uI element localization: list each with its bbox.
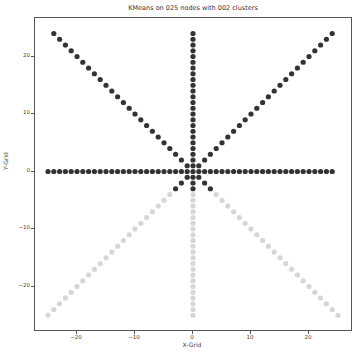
y-tick-label: −10 bbox=[8, 224, 30, 230]
dark-cluster-point bbox=[243, 117, 248, 122]
dark-cluster-point bbox=[208, 169, 213, 174]
dark-cluster-point bbox=[150, 169, 155, 174]
dark-cluster-point bbox=[86, 65, 91, 70]
light-cluster-point bbox=[330, 307, 335, 312]
dark-cluster-point bbox=[185, 163, 190, 168]
light-cluster-point bbox=[190, 221, 195, 226]
light-cluster-point bbox=[127, 232, 132, 237]
dark-cluster-point bbox=[190, 88, 195, 93]
dark-cluster-point bbox=[202, 180, 207, 185]
light-cluster-point bbox=[190, 284, 195, 289]
dark-cluster-point bbox=[190, 31, 195, 36]
light-cluster-point bbox=[190, 244, 195, 249]
dark-cluster-point bbox=[74, 169, 79, 174]
dark-cluster-point bbox=[272, 169, 277, 174]
dark-cluster-point bbox=[214, 146, 219, 151]
dark-cluster-point bbox=[121, 169, 126, 174]
light-cluster-point bbox=[190, 203, 195, 208]
dark-cluster-point bbox=[138, 169, 143, 174]
chart-title: KMeans on 025 nodes with 002 clusters bbox=[34, 4, 352, 12]
light-cluster-point bbox=[190, 198, 195, 203]
dark-cluster-point bbox=[196, 175, 201, 180]
light-cluster-point bbox=[190, 232, 195, 237]
x-tick-label: −20 bbox=[64, 334, 88, 340]
light-cluster-point bbox=[318, 295, 323, 300]
light-cluster-point bbox=[63, 295, 68, 300]
light-cluster-point bbox=[266, 244, 271, 249]
dark-cluster-point bbox=[190, 54, 195, 59]
light-cluster-point bbox=[190, 192, 195, 197]
x-tick-label: 20 bbox=[296, 334, 320, 340]
dark-cluster-point bbox=[161, 169, 166, 174]
dark-cluster-point bbox=[231, 129, 236, 134]
dark-cluster-point bbox=[190, 180, 195, 185]
light-cluster-point bbox=[190, 249, 195, 254]
light-cluster-point bbox=[86, 272, 91, 277]
dark-cluster-point bbox=[190, 48, 195, 53]
dark-cluster-point bbox=[306, 54, 311, 59]
dark-cluster-point bbox=[190, 134, 195, 139]
dark-cluster-point bbox=[115, 169, 120, 174]
dark-cluster-point bbox=[103, 169, 108, 174]
dark-cluster-point bbox=[156, 169, 161, 174]
dark-cluster-point bbox=[173, 152, 178, 157]
dark-cluster-point bbox=[98, 169, 103, 174]
light-cluster-point bbox=[190, 290, 195, 295]
dark-cluster-point bbox=[132, 169, 137, 174]
dark-cluster-point bbox=[237, 123, 242, 128]
light-cluster-point bbox=[190, 226, 195, 231]
light-cluster-point bbox=[219, 198, 224, 203]
dark-cluster-point bbox=[156, 134, 161, 139]
dark-cluster-point bbox=[167, 169, 172, 174]
dark-cluster-point bbox=[190, 146, 195, 151]
dark-cluster-point bbox=[254, 169, 259, 174]
dark-cluster-point bbox=[312, 48, 317, 53]
light-cluster-point bbox=[190, 307, 195, 312]
dark-cluster-point bbox=[283, 169, 288, 174]
dark-cluster-point bbox=[260, 169, 265, 174]
x-axis-label: X-Grid bbox=[180, 341, 204, 348]
dark-cluster-point bbox=[179, 180, 184, 185]
dark-cluster-point bbox=[190, 152, 195, 157]
dark-cluster-point bbox=[103, 83, 108, 88]
y-tick-mark bbox=[31, 228, 34, 229]
dark-cluster-point bbox=[190, 65, 195, 70]
y-tick-mark bbox=[31, 113, 34, 114]
x-tick-label: −10 bbox=[122, 334, 146, 340]
dark-cluster-point bbox=[330, 169, 335, 174]
light-cluster-point bbox=[190, 238, 195, 243]
dark-cluster-point bbox=[324, 37, 329, 42]
dark-cluster-point bbox=[208, 186, 213, 191]
dark-cluster-point bbox=[254, 106, 259, 111]
light-cluster-point bbox=[243, 221, 248, 226]
y-tick-mark bbox=[31, 171, 34, 172]
light-cluster-point bbox=[277, 255, 282, 260]
dark-cluster-point bbox=[190, 163, 195, 168]
dark-cluster-point bbox=[190, 71, 195, 76]
light-cluster-point bbox=[248, 226, 253, 231]
dark-cluster-point bbox=[92, 169, 97, 174]
dark-cluster-point bbox=[109, 88, 114, 93]
light-cluster-point bbox=[103, 255, 108, 260]
dark-cluster-point bbox=[260, 100, 265, 105]
dark-cluster-point bbox=[144, 123, 149, 128]
dark-cluster-point bbox=[132, 111, 137, 116]
scatter-points bbox=[35, 18, 353, 332]
dark-cluster-point bbox=[248, 111, 253, 116]
light-cluster-point bbox=[115, 244, 120, 249]
x-tick-label: 0 bbox=[180, 334, 204, 340]
dark-cluster-point bbox=[63, 169, 68, 174]
y-tick-mark bbox=[31, 286, 34, 287]
light-cluster-point bbox=[92, 267, 97, 272]
dark-cluster-point bbox=[190, 117, 195, 122]
dark-cluster-point bbox=[289, 71, 294, 76]
dark-cluster-point bbox=[190, 37, 195, 42]
dark-cluster-point bbox=[312, 169, 317, 174]
dark-cluster-point bbox=[185, 169, 190, 174]
dark-cluster-point bbox=[243, 169, 248, 174]
light-cluster-point bbox=[272, 249, 277, 254]
dark-cluster-point bbox=[295, 65, 300, 70]
light-cluster-point bbox=[231, 209, 236, 214]
dark-cluster-point bbox=[121, 100, 126, 105]
dark-cluster-point bbox=[190, 100, 195, 105]
